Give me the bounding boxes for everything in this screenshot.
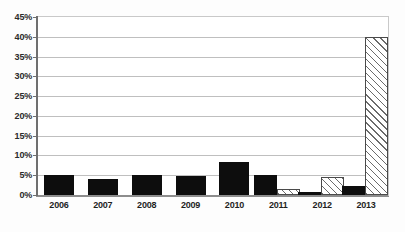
x-tick-label-2006: 2006 <box>49 200 68 210</box>
y-tick-label-5%: 5% <box>2 170 32 180</box>
bar-group-2010 <box>213 17 257 195</box>
bar-2006-solid <box>44 175 74 195</box>
bar-2009-solid <box>176 176 206 195</box>
bar-2011-solid <box>254 175 277 195</box>
bar-group-2009 <box>169 17 213 195</box>
y-tick-label-45%: 45% <box>2 12 32 22</box>
bar-2011-hatched <box>277 189 300 195</box>
bar-2012-solid <box>298 192 321 195</box>
x-tick-label-2013: 2013 <box>356 200 375 210</box>
bar-group-2013 <box>344 17 388 195</box>
y-tick-label-40%: 40% <box>2 32 32 42</box>
x-tick-label-2009: 2009 <box>181 200 200 210</box>
y-tick-label-25%: 25% <box>2 91 32 101</box>
y-tick-label-15%: 15% <box>2 131 32 141</box>
x-tick-label-2010: 2010 <box>225 200 244 210</box>
x-tick-label-2007: 2007 <box>93 200 112 210</box>
bar-chart: 0%5%10%15%20%25%30%35%40%45% 20062007200… <box>0 0 405 232</box>
bar-group-2012 <box>300 17 344 195</box>
y-tick-label-20%: 20% <box>2 111 32 121</box>
bar-2008-solid <box>132 175 162 195</box>
x-tick-label-2012: 2012 <box>313 200 332 210</box>
bar-group-2006 <box>37 17 81 195</box>
bar-2012-hatched <box>321 177 344 195</box>
bar-2010-solid <box>219 162 249 195</box>
x-axis-line <box>36 196 389 197</box>
bar-2007-solid <box>88 179 118 195</box>
y-tick-label-35%: 35% <box>2 52 32 62</box>
y-tick-label-0%: 0% <box>2 190 32 200</box>
bar-group-2011 <box>256 17 300 195</box>
x-tick-label-2008: 2008 <box>137 200 156 210</box>
x-tick-label-2011: 2011 <box>269 200 288 210</box>
bar-2013-solid <box>342 186 365 195</box>
x-axis-tick-labels: 20062007200820092010201120122013 <box>37 200 388 216</box>
bar-group-2008 <box>125 17 169 195</box>
y-tick-label-30%: 30% <box>2 71 32 81</box>
y-tick-label-10%: 10% <box>2 150 32 160</box>
bar-2013-hatched <box>365 37 388 195</box>
bar-group-2007 <box>81 17 125 195</box>
bars-layer <box>37 17 388 195</box>
